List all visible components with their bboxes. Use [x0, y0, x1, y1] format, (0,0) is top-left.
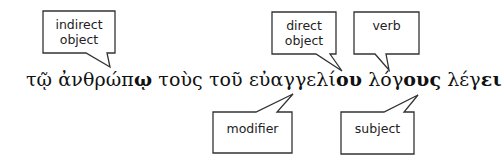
callout-indirect-object-line2: object [43, 32, 115, 47]
callout-modifier-line1: modifier [213, 121, 292, 136]
word-7: λέγει [447, 68, 502, 90]
word-2: ἀνθρώπῳ [58, 68, 152, 90]
word-6-ending: ους [403, 68, 441, 90]
callout-direct-object-line1: direct [272, 18, 336, 33]
callout-verb: verb [354, 18, 419, 33]
word-2-ending: ῳ [134, 68, 152, 90]
callout-subject-line1: subject [341, 121, 414, 136]
word-3: τοὺς [158, 68, 203, 90]
word-4: τοῦ [209, 68, 243, 90]
callout-verb-line1: verb [354, 18, 419, 33]
greek-sentence: τῷ ἀνθρώπῳ τοὺς τοῦ εὐαγγελίου λόγους λέ… [26, 68, 502, 90]
callout-direct-object: direct object [272, 18, 336, 48]
word-5: εὐαγγελίου [249, 68, 362, 90]
callout-modifier: modifier [213, 121, 292, 136]
word-6: λόγους [368, 68, 441, 90]
word-5-ending: ου [336, 68, 362, 90]
word-1: τῷ [26, 68, 52, 90]
callout-indirect-object-line1: indirect [43, 17, 115, 32]
word-7-ending: ει [481, 68, 502, 90]
callout-subject: subject [341, 121, 414, 136]
callout-direct-object-line2: object [272, 33, 336, 48]
callout-indirect-object: indirect object [43, 17, 115, 47]
